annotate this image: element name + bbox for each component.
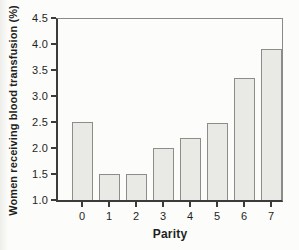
x-tick-label-1: 1	[98, 210, 120, 223]
bar-parity-3	[153, 148, 174, 200]
bar-parity-4	[180, 138, 201, 200]
y-tick-3.0	[51, 95, 56, 97]
x-tick-2	[135, 202, 137, 207]
x-tick-6	[243, 202, 245, 207]
x-tick-0	[81, 202, 83, 207]
x-tick-label-4: 4	[179, 210, 201, 223]
bar-parity-5	[207, 123, 228, 200]
y-tick-3.5	[51, 69, 56, 71]
x-tick-label-6: 6	[233, 210, 255, 223]
x-tick-5	[216, 202, 218, 207]
bar-parity-6	[234, 78, 255, 200]
y-tick-1.5	[51, 173, 56, 175]
y-tick-label-1.0: 1.0	[20, 194, 48, 207]
y-tick-label-2.0: 2.0	[20, 142, 48, 155]
y-tick-label-4.0: 4.0	[20, 38, 48, 51]
bar-parity-1	[99, 174, 120, 200]
x-axis-title: Parity	[139, 227, 201, 241]
y-tick-2.0	[51, 147, 56, 149]
y-tick-label-3.5: 3.5	[20, 64, 48, 77]
x-tick-4	[189, 202, 191, 207]
y-tick-2.5	[51, 121, 56, 123]
x-tick-label-3: 3	[152, 210, 174, 223]
plot-area	[56, 18, 283, 202]
y-tick-label-1.5: 1.5	[20, 168, 48, 181]
x-tick-7	[270, 202, 272, 207]
y-tick-label-2.5: 2.5	[20, 116, 48, 129]
x-tick-1	[108, 202, 110, 207]
x-tick-label-2: 2	[125, 210, 147, 223]
y-tick-1.0	[51, 199, 56, 201]
x-tick-3	[162, 202, 164, 207]
y-tick-label-3.0: 3.0	[20, 90, 48, 103]
x-tick-label-0: 0	[71, 210, 93, 223]
y-axis-title: Women receiving blood transfusion (%)	[7, 0, 22, 226]
y-tick-4.0	[51, 43, 56, 45]
bar-parity-0	[72, 122, 93, 200]
bar-parity-7	[261, 49, 282, 200]
y-tick-label-4.5: 4.5	[20, 12, 48, 25]
y-tick-4.5	[51, 17, 56, 19]
bar-chart-figure: Women receiving blood transfusion (%) Pa…	[0, 0, 299, 250]
bar-parity-2	[126, 174, 147, 200]
x-tick-label-5: 5	[206, 210, 228, 223]
x-tick-label-7: 7	[260, 210, 282, 223]
